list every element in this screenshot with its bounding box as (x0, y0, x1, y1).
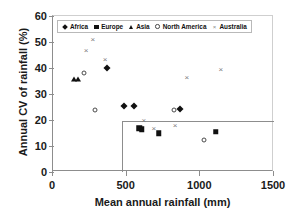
legend-item-africa: Africa (62, 23, 88, 30)
data-point-north-america (92, 108, 97, 113)
y-axis-tick-label: 0 (41, 166, 47, 178)
data-point-asia (75, 76, 81, 81)
x-axis-tick (52, 171, 53, 176)
y-axis-tick-label: 40 (35, 62, 47, 74)
legend-marker-glyph (62, 24, 68, 30)
legend-marker-glyph (94, 25, 99, 30)
data-point-north-america (81, 70, 86, 75)
y-axis-tick-label: 20 (35, 114, 47, 126)
legend-marker-glyph (211, 24, 217, 30)
data-point-australia (140, 117, 147, 124)
scatter-chart: 0102030405060 050010001500 Mean annual r… (0, 0, 302, 223)
data-point-australia (183, 74, 190, 81)
y-axis-tick-label: 30 (35, 88, 47, 100)
data-point-africa (120, 102, 127, 109)
x-axis-tick (126, 171, 127, 176)
legend-marker-glyph (155, 24, 159, 28)
x-axis-title: Mean annual rainfall (mm) (52, 196, 273, 208)
data-point-australia (150, 125, 157, 132)
legend-label: North America (163, 23, 207, 30)
data-point-africa (130, 102, 137, 109)
data-point-australia (217, 66, 224, 73)
y-axis-tick (49, 68, 54, 69)
y-axis-tick (49, 42, 54, 43)
legend-item-australia: Australia (211, 23, 246, 30)
data-point-australia (89, 35, 96, 42)
data-point-australia (102, 55, 109, 62)
legend-marker-glyph (129, 25, 133, 29)
data-point-europe (139, 126, 145, 132)
x-axis-tick-label: 500 (116, 179, 134, 191)
y-axis-tick (49, 146, 54, 147)
legend-label: Asia (136, 23, 150, 30)
data-point-australia (83, 47, 90, 54)
data-point-north-america (171, 108, 176, 113)
plot-area: 0102030405060 (52, 15, 273, 171)
legend-label: Africa (70, 23, 88, 30)
legend-marker-icon (155, 24, 161, 30)
x-axis-tick (273, 171, 274, 176)
data-point-north-america (201, 138, 206, 143)
data-point-australia (171, 121, 178, 128)
y-axis-tick-label: 50 (35, 36, 47, 48)
y-axis-tick-label: 10 (35, 140, 47, 152)
data-point-africa (176, 106, 183, 113)
chart-legend: AfricaEuropeAsiaNorth AmericaAustralia (57, 20, 252, 33)
reference-rectangle (122, 121, 274, 172)
x-axis-tick-label: 0 (49, 179, 55, 191)
legend-marker-icon (62, 24, 68, 30)
data-point-europe (213, 129, 219, 135)
data-point-africa (103, 64, 110, 71)
legend-item-asia: Asia (128, 23, 150, 30)
x-axis-tick (199, 171, 200, 176)
y-axis-tick (49, 94, 54, 95)
legend-item-north-america: North America (155, 23, 207, 30)
x-axis-tick-label: 1500 (261, 179, 285, 191)
legend-marker-icon (211, 24, 217, 30)
y-axis-tick (49, 120, 54, 121)
y-axis-tick-label: 60 (35, 10, 47, 22)
legend-marker-icon (93, 24, 99, 30)
legend-label: Europe (101, 23, 123, 30)
y-axis-tick (49, 16, 54, 17)
legend-marker-icon (128, 24, 134, 30)
legend-label: Australia (219, 23, 246, 30)
x-axis-tick-label: 1000 (187, 179, 211, 191)
legend-item-europe: Europe (93, 23, 123, 30)
x-axis: 050010001500 (52, 171, 273, 172)
y-axis-title: Annual CV of rainfall (%) (17, 7, 29, 177)
